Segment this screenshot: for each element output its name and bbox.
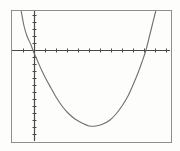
plot-canvas xyxy=(0,0,180,151)
calculator-graph-screenshot xyxy=(0,0,180,151)
